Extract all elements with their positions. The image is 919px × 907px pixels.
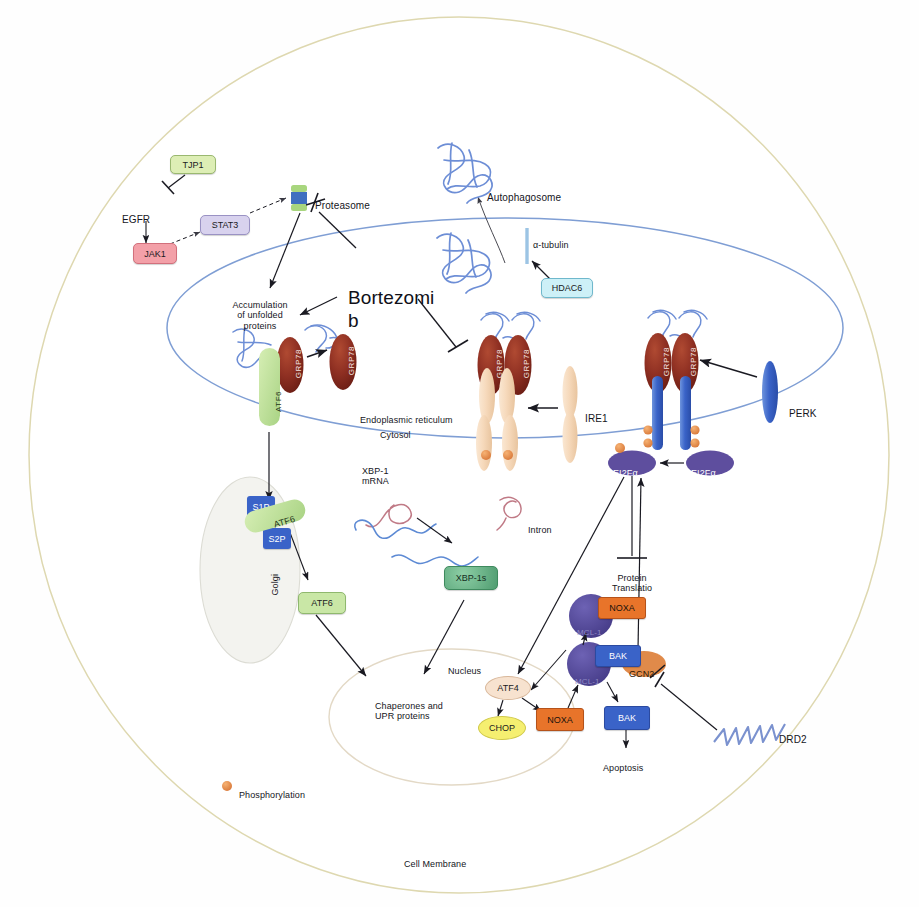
node-eif2a-label: EI2Fα [691,468,716,478]
node-hdac6-label: HDAC6 [552,283,583,293]
node-gcn2-label: GCN2 [629,669,654,679]
node-jak1-label: JAK1 [144,249,166,259]
node-chop[interactable]: CHOP [478,716,526,740]
alpha-tubulin-label: α-tubulin [533,229,569,250]
diagram-vector-layer: STAT3 (dashed) --> proteasome (dashed) -… [0,0,919,907]
xbp1-mrna-label-text: XBP-1 mRNA [362,466,389,487]
drug-bortezomib: Bortezomi b [348,265,458,332]
node-grp78-er-left: GRP78 [285,349,304,378]
node-hdac6[interactable]: HDAC6 [541,278,593,298]
node-noxa-bound-label: NOXA [609,603,635,613]
chaperones-label: Chaperones and UPR proteins [375,690,443,722]
cytosol-label-text: Cytosol [380,430,411,440]
node-grp78-perk-b: GRP78 [680,347,699,376]
node-s2p-label: S2P [268,534,285,544]
node-grp78-label: GRP78 [347,346,356,375]
node-grp78-ire1-b: GRP78 [513,349,532,378]
node-drd2: DRD2 [779,722,807,746]
apoptosis-label: Apoptosis [603,752,643,773]
intron-label: Intron [528,514,552,535]
node-grp78-released: GRP78 [338,346,357,375]
node-perk: PERK [789,396,817,420]
proteasome-label-text: Proteasome [315,200,370,211]
node-eif2a-phospho: EI2Fα [613,457,638,478]
autophagosome-label-text: Autophagosome [487,192,561,203]
node-xbp1s[interactable]: XBP-1s [444,566,498,590]
alpha-tubulin-label-text: α-tubulin [533,240,569,250]
xbp1-mrna-label: XBP-1 mRNA [362,455,389,487]
node-ire1: IRE1 [585,401,608,425]
node-s2p[interactable]: S2P [263,528,291,549]
proteasome-label: Proteasome [315,188,370,212]
node-drd2-label: DRD2 [779,734,807,745]
node-noxa-nucleus-label: NOXA [547,715,573,725]
accumulation-label: Accumulation of unfolded proteins [205,289,315,331]
accumulation-label-text: Accumulation of unfolded proteins [232,300,287,331]
node-ire1-label: IRE1 [585,413,608,424]
golgi-label-text: Golgi [270,574,280,596]
node-grp78-label: GRP78 [495,349,504,378]
legend-phosphorylation-text: Phosphorylation [239,790,305,800]
node-perk-label: PERK [789,408,817,419]
node-grp78-ire1-a: GRP78 [486,349,505,378]
pathway-diagram: STAT3 (dashed) --> proteasome (dashed) -… [0,0,919,907]
node-mcl1-lower-label: MCL-1 [575,677,600,686]
node-grp78-label: GRP78 [294,349,303,378]
compartment-nucleus-label: Nucleus [448,655,481,676]
node-mcl1-upper: MCL-1 [577,619,602,638]
node-grp78-label: GRP78 [662,347,671,376]
node-chop-label: CHOP [489,723,515,733]
node-tjp1[interactable]: TJP1 [170,155,216,174]
node-mcl1-lower: MCL-1 [575,668,600,687]
node-bak-free-label: BAK [618,713,636,723]
node-noxa-bound[interactable]: NOXA [598,597,646,619]
node-grp78-perk-a: GRP78 [653,347,672,376]
node-stat3-label: STAT3 [212,220,239,230]
node-noxa-nucleus[interactable]: NOXA [536,708,584,731]
compartment-golgi-label: Golgi [259,574,280,596]
node-gcn2: GCN2 [629,658,654,679]
autophagosome-label: Autophagosome [487,180,561,204]
node-tjp1-label: TJP1 [182,160,203,170]
compartment-cell-membrane-label: Cell Membrane [404,848,466,869]
chaperones-label-text: Chaperones and UPR proteins [375,701,443,722]
node-mcl1-upper-label: MCL-1 [577,628,602,637]
compartment-cytosol-label: Cytosol [380,419,411,440]
node-jak1[interactable]: JAK1 [133,243,177,264]
node-bak-free[interactable]: BAK [604,706,650,730]
apoptosis-label-text: Apoptosis [603,763,643,773]
nucleus-label-text: Nucleus [448,666,481,676]
node-xbp1s-label: XBP-1s [456,573,487,583]
node-atf6-er: ATF6 [265,391,284,412]
node-eif2a: EI2Fα [691,457,716,478]
node-atf4[interactable]: ATF4 [485,676,531,700]
node-egfr-label: EGFR [122,214,150,225]
node-eif2a-phospho-label: EI2Fα [613,468,638,478]
node-stat3[interactable]: STAT3 [200,215,250,235]
node-atf6-free[interactable]: ATF6 [298,592,346,614]
legend-phosphorylation-label: Phosphorylation [239,779,305,800]
node-grp78-label: GRP78 [689,347,698,376]
node-atf6-er-label: ATF6 [274,391,283,412]
node-grp78-label: GRP78 [522,349,531,378]
cell-membrane-label-text: Cell Membrane [404,859,466,869]
node-atf6-free-label: ATF6 [311,598,332,608]
node-bak-bound-label: BAK [609,651,627,661]
node-egfr: EGFR [122,202,150,226]
intron-label-text: Intron [528,525,552,535]
node-atf4-label: ATF4 [497,683,518,693]
drug-bortezomib-label: Bortezomi b [348,287,434,330]
